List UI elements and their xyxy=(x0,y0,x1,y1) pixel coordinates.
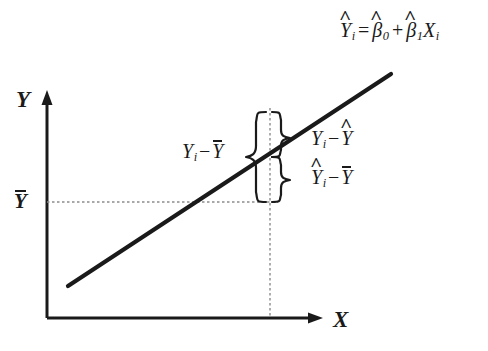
x-axis-label: X xyxy=(333,308,348,331)
total-deviation-label: Yi−Y xyxy=(182,140,223,163)
regression-decomposition-diagram: Y X Y Yi=β0+β1Xi Yi−Y Yi−Y Yi−Y xyxy=(0,0,488,351)
diagram-canvas xyxy=(0,0,488,351)
regression-equation-label: Yi=β0+β1Xi xyxy=(340,20,439,42)
residual-deviation-label: Yi−Y xyxy=(311,128,352,150)
mean-value-label: Y xyxy=(14,190,27,212)
explained-deviation-label: Yi−Y xyxy=(311,166,352,189)
x-axis xyxy=(47,313,323,324)
y-axis xyxy=(42,90,53,318)
explained-brace xyxy=(272,157,290,202)
y-axis-label: Y xyxy=(16,88,30,111)
